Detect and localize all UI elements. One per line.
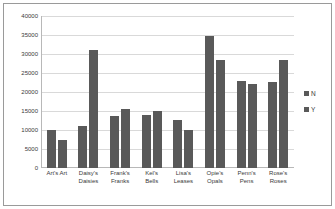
x-axis-labels: Art's ArtDaisy's DaisiesFrank's FranksKe… bbox=[41, 170, 294, 185]
legend-swatch-icon bbox=[304, 107, 309, 112]
legend-item-n: N bbox=[304, 90, 334, 97]
chart-screenshot: 40000 35000 30000 25000 20000 15000 1000… bbox=[0, 0, 335, 209]
x-axis-label: Art's Art bbox=[41, 170, 73, 185]
x-axis-label: Kel's Bells bbox=[136, 170, 168, 185]
bar-group bbox=[231, 16, 263, 168]
bar-y bbox=[216, 60, 225, 168]
bar-n bbox=[110, 116, 119, 168]
bars-layer bbox=[41, 16, 294, 168]
chart-legend: N Y bbox=[304, 90, 334, 122]
y-axis-tick-label: 35000 bbox=[21, 32, 38, 39]
x-axis-label: Lisa's Leases bbox=[168, 170, 200, 185]
bar-n bbox=[47, 130, 56, 168]
bar-n bbox=[268, 82, 277, 168]
y-axis-tick-label: 25000 bbox=[21, 70, 38, 77]
bar-n bbox=[205, 36, 214, 168]
bar-n bbox=[142, 115, 151, 168]
bar-y bbox=[58, 140, 67, 168]
bar-y bbox=[248, 84, 257, 168]
legend-label: Y bbox=[311, 106, 315, 113]
bar-group bbox=[199, 16, 231, 168]
bar-y bbox=[279, 60, 288, 168]
bar-y bbox=[121, 109, 130, 168]
y-axis-tick-label: 20000 bbox=[21, 89, 38, 96]
bar-group bbox=[262, 16, 294, 168]
bar-n bbox=[237, 81, 246, 168]
x-axis-label: Rose's Roses bbox=[262, 170, 294, 185]
chart-frame: 40000 35000 30000 25000 20000 15000 1000… bbox=[3, 3, 332, 206]
x-axis-label: Penn's Pens bbox=[231, 170, 263, 185]
bar-group bbox=[104, 16, 136, 168]
legend-swatch-icon bbox=[304, 91, 309, 96]
y-axis-tick-label: 30000 bbox=[21, 51, 38, 58]
y-axis-tick-label: 5000 bbox=[25, 146, 38, 153]
legend-item-y: Y bbox=[304, 106, 334, 113]
bar-group bbox=[73, 16, 105, 168]
y-axis-tick-label: 15000 bbox=[21, 108, 38, 115]
bar-y bbox=[153, 111, 162, 168]
x-axis-label: Frank's Franks bbox=[104, 170, 136, 185]
y-axis-tick-label: 10000 bbox=[21, 127, 38, 134]
bar-y bbox=[89, 50, 98, 168]
bar-n bbox=[173, 120, 182, 168]
bar-group bbox=[168, 16, 200, 168]
y-axis-tick-label: 40000 bbox=[21, 13, 38, 20]
bar-n bbox=[78, 126, 87, 168]
x-axis-label: Daisy's Daisies bbox=[73, 170, 105, 185]
y-axis-tick-label: 0 bbox=[35, 165, 38, 172]
bar-group bbox=[136, 16, 168, 168]
y-axis-tick-labels: 40000 35000 30000 25000 20000 15000 1000… bbox=[4, 16, 38, 168]
bar-y bbox=[184, 130, 193, 168]
x-axis-label: Opie's Opals bbox=[199, 170, 231, 185]
legend-label: N bbox=[311, 90, 316, 97]
bar-group bbox=[41, 16, 73, 168]
